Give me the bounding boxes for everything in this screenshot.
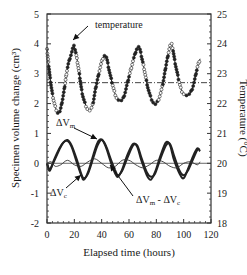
volume-temperature-chart: 020406080100120-2-1012345181920212223242…: [0, 0, 247, 275]
series-layer: [46, 42, 212, 180]
temperature-marker: [142, 63, 145, 66]
temperature-marker: [59, 106, 62, 109]
temperature-marker: [131, 63, 134, 66]
temperature-marker: [134, 51, 137, 54]
temperature-marker: [196, 65, 199, 68]
y-tick-label-right: 25: [217, 9, 227, 20]
temperature-marker: [157, 98, 160, 101]
temperature-marker: [90, 106, 93, 109]
temperature-marker: [192, 85, 195, 88]
temperature-marker: [167, 55, 170, 58]
temperature-marker: [62, 94, 65, 97]
temperature-marker: [124, 91, 127, 94]
temperature-marker: [173, 58, 176, 61]
temperature-marker: [110, 77, 113, 80]
temperature-marker: [61, 101, 64, 104]
temperature-marker: [154, 103, 157, 106]
temperature-marker: [98, 69, 101, 72]
temperature-marker: [158, 95, 161, 98]
temperature-marker: [123, 94, 126, 97]
y-tick-label-left: 5: [34, 9, 39, 20]
temperature-marker: [70, 50, 73, 53]
y-tick-label-left: 1: [34, 128, 39, 139]
temperature-marker: [128, 72, 131, 75]
temperature-marker: [65, 69, 68, 72]
y-tick-label-right: 22: [217, 98, 227, 109]
temperature-marker: [191, 88, 194, 91]
temperature-marker: [159, 91, 162, 94]
temperature-marker: [125, 84, 128, 87]
plot-frame: [47, 14, 211, 223]
x-tick-label: 120: [204, 229, 219, 240]
chart-container: 020406080100120-2-1012345181920212223242…: [0, 0, 247, 275]
temperature-marker: [93, 94, 96, 97]
temperature-marker: [83, 101, 86, 104]
temperature-marker: [132, 56, 135, 59]
temperature-marker: [162, 79, 165, 82]
x-tick-label: 60: [124, 229, 134, 240]
temperature-marker: [106, 61, 109, 64]
y-tick-label-right: 23: [217, 68, 227, 79]
temperature-marker: [139, 50, 142, 53]
x-tick-label: 20: [69, 229, 79, 240]
temperature-marker: [179, 86, 182, 89]
x-tick-label: 80: [151, 229, 161, 240]
temperature-marker: [61, 98, 64, 101]
y-tick-label-right: 21: [217, 128, 227, 139]
temperature-marker: [193, 81, 196, 84]
temperature-marker: [63, 85, 66, 88]
temperature-marker: [160, 88, 163, 91]
temperature-marker: [88, 109, 91, 112]
temperature-marker: [80, 88, 83, 91]
temperature-marker: [124, 87, 127, 90]
y-tick-label-left: 0: [34, 158, 39, 169]
temperature-marker: [117, 99, 120, 102]
temperature-marker: [170, 42, 173, 45]
temperature-marker: [66, 66, 69, 69]
temperature-marker: [145, 79, 148, 82]
temperature-marker: [96, 78, 99, 81]
temperature-marker: [128, 75, 131, 78]
y-tick-label-right: 20: [217, 158, 227, 169]
temperature-marker: [101, 57, 104, 60]
temperature-marker: [120, 99, 123, 102]
temperature-marker: [95, 85, 98, 88]
temperature-marker: [65, 73, 68, 76]
temperature-marker: [127, 79, 130, 82]
temperature-marker: [78, 72, 81, 75]
y-axis-label-left: Specimen volume change (cm³): [9, 48, 22, 188]
temperature-marker: [188, 93, 191, 96]
temperature-marker: [161, 83, 164, 86]
y-tick-label-right: 19: [217, 188, 227, 199]
temperature-marker: [198, 60, 201, 63]
temperature-marker: [54, 105, 57, 108]
temperature-marker: [165, 63, 168, 66]
temperature-marker: [195, 72, 198, 75]
x-tick-label: 100: [176, 229, 191, 240]
temperature-marker: [130, 67, 133, 70]
y-tick-label-right: 18: [217, 218, 227, 229]
temperature-marker: [165, 60, 168, 63]
y-tick-label-left: 4: [34, 38, 39, 49]
temperature-marker: [67, 62, 70, 65]
x-axis-label: Elapsed time (hours): [83, 246, 175, 259]
temperature-marker: [176, 73, 179, 76]
annotation-label: ΔVc: [50, 187, 67, 200]
temperature-marker: [93, 90, 96, 93]
temperature-marker: [163, 76, 166, 79]
temperature-marker: [131, 60, 134, 63]
temperature-marker: [168, 48, 171, 51]
temperature-marker: [62, 91, 65, 94]
temperature-marker: [164, 67, 167, 70]
temperature-marker: [163, 72, 166, 75]
temperature-marker: [99, 62, 102, 65]
temperature-marker: [167, 51, 170, 54]
annotation-label: ΔVm: [56, 117, 76, 130]
temperature-marker: [51, 92, 54, 95]
temperature-marker: [193, 78, 196, 81]
y-tick-label-left: -1: [31, 188, 39, 199]
y-tick-label-right: 24: [217, 38, 227, 49]
temperature-marker: [113, 89, 116, 92]
temperature-marker: [99, 66, 102, 69]
temperature-marker: [58, 110, 61, 113]
